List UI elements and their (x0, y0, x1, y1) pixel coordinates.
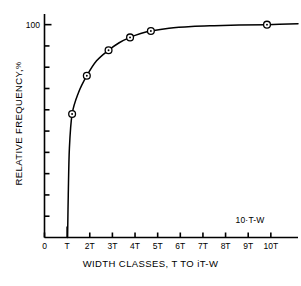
data-point-5 (264, 21, 271, 28)
x-tick-label-5: 5T (153, 241, 163, 251)
x-axis-ticks (45, 227, 271, 238)
data-point-4 (147, 28, 154, 35)
x-axis-title: WIDTH CLASSES, T TO iT-W (0, 258, 301, 269)
data-curve (68, 24, 298, 238)
x-tick-label-9: 9T (243, 241, 253, 251)
x-tick-label-6: 6T (175, 241, 185, 251)
x-tick-label-0: 0 (42, 241, 47, 251)
x-tick-label-3: 3T (107, 241, 117, 251)
marker-dot-0 (71, 113, 73, 115)
x-tick-label-10: 10T (263, 241, 278, 251)
x-tick-label-7: 7T (198, 241, 208, 251)
marker-dot-2 (108, 49, 110, 51)
y-tick-label-0: 100 (14, 20, 40, 30)
y-axis-title: RELATIVE FREQUENCY,% (13, 44, 24, 204)
data-point-1 (83, 72, 90, 79)
chart-figure: 0T2T3T4T5T6T7T8T9T10T 100 10·T-W WIDTH C… (0, 0, 301, 286)
annotation-0: 10·T-W (236, 215, 265, 225)
marker-dot-3 (129, 36, 131, 38)
data-point-markers (69, 21, 271, 117)
data-point-0 (69, 111, 76, 118)
x-tick-label-1: T (64, 241, 69, 251)
data-point-2 (105, 47, 112, 54)
y-axis-title-unit: % (14, 61, 23, 69)
marker-dot-1 (86, 75, 88, 77)
axes-group (45, 14, 299, 238)
marker-dot-5 (266, 24, 268, 26)
x-tick-label-4: 4T (130, 241, 140, 251)
data-point-3 (127, 34, 134, 41)
marker-dot-4 (150, 30, 152, 32)
y-axis-ticks (45, 25, 52, 217)
x-tick-label-2: 2T (85, 241, 95, 251)
y-axis-title-text: RELATIVE FREQUENCY, (13, 69, 24, 186)
x-tick-label-8: 8T (221, 241, 231, 251)
